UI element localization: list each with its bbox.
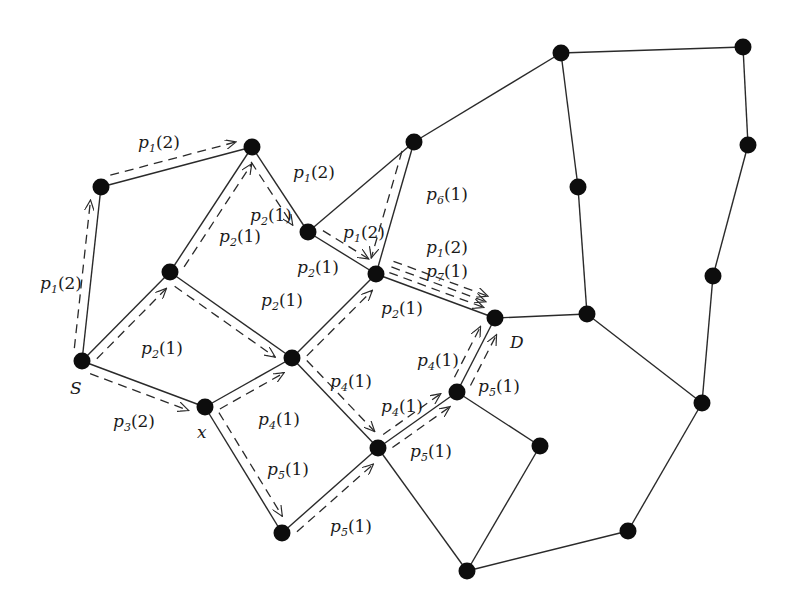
edge-O-P	[702, 276, 713, 403]
source-label: S	[70, 378, 82, 398]
node-M	[459, 563, 476, 580]
node-D	[487, 310, 504, 327]
flow-label: p5(1)	[267, 459, 309, 482]
flow-label: p6(1)	[426, 184, 468, 207]
edge-P-Q	[713, 145, 748, 276]
destination-label: D	[509, 332, 524, 352]
edge-E-F	[308, 142, 414, 232]
flow-label: p5(1)	[330, 516, 372, 539]
flow-arrow-X-H	[220, 373, 284, 409]
edge-M-N	[467, 531, 628, 571]
flow-label: p2(1)	[141, 338, 183, 361]
node-C	[162, 264, 179, 281]
node-T	[553, 45, 570, 62]
edge-D-V	[495, 314, 587, 318]
flow-label: p2(1)	[219, 226, 261, 249]
network-flow-diagram: p1(2)p1(2)p1(2)p2(1)p2(1)p1(2)p6(1)p2(1)…	[0, 0, 792, 606]
edge-I-D	[457, 318, 495, 392]
node-G	[368, 266, 385, 283]
flow-label: p4(1)	[258, 409, 300, 432]
edge-H-G	[292, 274, 376, 358]
flow-label: p3(2)	[113, 411, 155, 434]
flow-label: p2(1)	[297, 257, 339, 280]
node-O	[694, 395, 711, 412]
edge-L-M	[467, 446, 540, 571]
node-J	[370, 440, 387, 457]
flow-label: p4(1)	[330, 371, 372, 394]
flow-label: p4(1)	[417, 350, 459, 373]
edge-N-O	[628, 403, 702, 531]
edge-X-H	[205, 358, 292, 407]
node-R	[735, 39, 752, 56]
flow-label: p5(1)	[478, 376, 520, 399]
node-Q	[740, 137, 757, 154]
flow-label: p4(1)	[381, 396, 423, 419]
flow-label: p1(2)	[343, 222, 385, 245]
flow-arrow-C-B	[184, 164, 252, 267]
node-H	[284, 350, 301, 367]
edge-J-M	[378, 448, 467, 571]
node-F	[406, 134, 423, 151]
flow-label: p5(1)	[410, 441, 452, 464]
node-U	[570, 179, 587, 196]
node-I	[449, 384, 466, 401]
node-X	[197, 399, 214, 416]
flow-arrow-S-X	[90, 374, 189, 411]
flow-arrow-F-G	[371, 151, 402, 258]
edge-C-H	[170, 272, 292, 358]
flow-label: p1(2)	[426, 237, 468, 260]
edge-I-L	[457, 392, 540, 446]
flow-label: p1(2)	[138, 132, 180, 155]
flow-label: p2(1)	[261, 290, 303, 313]
flow-labels: p1(2)p1(2)p1(2)p2(1)p2(1)p1(2)p6(1)p2(1)…	[40, 132, 520, 539]
flow-label: p2(1)	[250, 205, 292, 228]
node-K	[274, 525, 291, 542]
node-S	[74, 353, 91, 370]
flow-arrow-H-G	[307, 290, 373, 356]
node-N	[620, 523, 637, 540]
flow-label: p2(1)	[381, 298, 423, 321]
edge-R-T	[561, 47, 743, 53]
edge-Q-R	[743, 47, 748, 145]
node-B	[244, 139, 261, 156]
edge-F-G	[376, 142, 414, 274]
node-V	[579, 306, 596, 323]
edge-F-T	[414, 53, 561, 142]
intermediate-x-label: x	[197, 422, 207, 442]
edge-T-U	[561, 53, 578, 187]
flow-label: p1(2)	[293, 162, 335, 185]
flow-label: p1(2)	[40, 273, 82, 296]
node-A	[93, 179, 110, 196]
edge-U-V	[578, 187, 587, 314]
node-L	[532, 438, 549, 455]
node-P	[705, 268, 722, 285]
edge-V-O	[587, 314, 702, 403]
flow-label: p7(1)	[426, 261, 468, 284]
edge-S-X	[82, 361, 205, 407]
edge-S-A	[82, 187, 101, 361]
node-E	[300, 224, 317, 241]
